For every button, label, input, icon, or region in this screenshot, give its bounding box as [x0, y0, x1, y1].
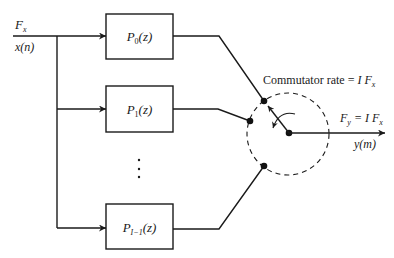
- contact-dot-last: [261, 163, 268, 170]
- filter-box-last: PI−1(z): [106, 204, 173, 249]
- input-rate-label: Fx: [14, 17, 27, 34]
- ellipsis-dots: [138, 159, 140, 178]
- filter-box-1: P1(z): [106, 86, 173, 132]
- polyphase-diagram: Fx x(n) P0(z) P1(z) PI−1(z): [0, 0, 394, 258]
- svg-text:P1(z): P1(z): [126, 102, 153, 119]
- wire-0: [173, 36, 264, 101]
- wire-last: [173, 166, 264, 229]
- svg-text:PI−1(z): PI−1(z): [122, 220, 157, 237]
- input-signal-label: x(n): [14, 40, 34, 54]
- output-rate-label: Fy = I Fx: [339, 111, 383, 127]
- svg-text:P0(z): P0(z): [126, 29, 153, 46]
- commutator-arm: [268, 106, 289, 133]
- commutator-rate-label: Commutator rate = I Fx: [263, 73, 376, 89]
- contact-dot-1: [247, 118, 254, 125]
- filter-box-0: P0(z): [106, 14, 173, 59]
- wire-1: [173, 109, 250, 121]
- output-signal-label: y(m): [353, 137, 376, 151]
- contact-dot-0: [261, 98, 268, 105]
